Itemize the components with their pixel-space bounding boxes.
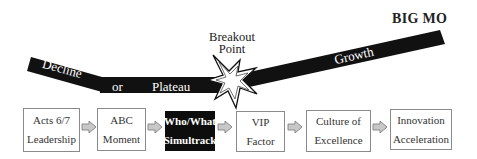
step-line1: Culture of [316,112,361,131]
step-line2: Leadership [27,130,76,149]
arrow-right-icon [217,120,233,134]
big-mo-diagram: Decline or Plateau Growth BIG MO Breakou… [0,0,477,159]
step-line1: ABC [110,111,133,130]
step-acts-leadership: Acts 6/7 Leadership [23,108,80,152]
step-vip-factor: VIP Factor [236,111,285,152]
step-line1: Who/What [164,112,216,131]
step-who-what-simultrack: Who/What Simultrack [165,111,215,151]
step-innovation-acceleration: Innovation Acceleration [390,109,452,150]
breakout-line2: Point [206,43,258,55]
arrow-right-icon [372,120,388,134]
step-line2: Excellence [314,131,362,150]
step-line1: Innovation [397,111,445,130]
plateau-label: Plateau [152,80,190,93]
step-line1: VIP [252,113,270,132]
step-line2: Simultrack [164,131,217,150]
arrow-right-icon [287,120,303,134]
step-line2: Moment [103,130,140,149]
or-label: or [112,80,123,93]
step-line2: Acceleration [393,130,449,149]
step-abc-moment: ABC Moment [97,108,146,151]
step-line1: Acts 6/7 [33,111,70,130]
breakout-point-label: Breakout Point [206,31,258,55]
arrow-right-icon [147,120,163,134]
arrow-right-icon [81,120,97,134]
diagram-title: BIG MO [392,11,447,27]
step-line2: Factor [246,132,274,151]
step-culture-excellence: Culture of Excellence [306,110,371,152]
